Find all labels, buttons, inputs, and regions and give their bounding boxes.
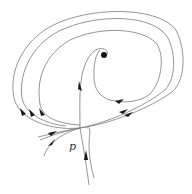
saddle-point-label: p — [69, 140, 76, 153]
incoming-left-1 — [38, 128, 80, 137]
trajectory-outer — [13, 12, 183, 140]
trajectory-middle — [21, 19, 173, 128]
unstable-branch-right — [87, 128, 94, 178]
arrow-icon — [78, 81, 82, 91]
phase-portrait-diagram — [0, 0, 192, 194]
arrow-icon — [29, 109, 35, 117]
fixed-point-dot — [101, 52, 107, 58]
arrow-icon — [119, 109, 128, 114]
arrow-icon — [48, 139, 55, 146]
trajectory-spiral — [80, 49, 108, 128]
trajectory-inner — [39, 30, 161, 125]
stable-manifold-bottom — [80, 128, 89, 185]
